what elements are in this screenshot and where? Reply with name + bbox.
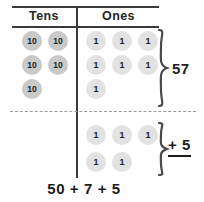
tens-token: 10 [22, 79, 42, 99]
ones-token: 1 [112, 152, 132, 172]
ones-token: 1 [112, 55, 132, 75]
column-divider [76, 6, 78, 178]
tens-token: 10 [48, 55, 68, 75]
ones-token: 1 [138, 55, 158, 75]
total-label: 57 [172, 60, 190, 77]
header-rule-bottom [12, 26, 159, 28]
tens-token: 10 [22, 31, 42, 51]
brace-top [158, 29, 172, 107]
group-separator [10, 111, 196, 112]
column-header-ones: Ones [78, 8, 159, 25]
ones-token: 1 [86, 125, 106, 145]
ones-token: 1 [138, 31, 158, 51]
equation-text: 50 + 7 + 5 [0, 180, 168, 197]
tens-token: 10 [22, 55, 42, 75]
ones-token: 1 [112, 31, 132, 51]
ones-token: 1 [86, 79, 106, 99]
tens-token: 10 [48, 31, 68, 51]
addend-label: + 5 [168, 136, 191, 157]
place-value-chart: Tens Ones 10 10 10 10 10 1 1 1 1 1 1 1 5… [0, 0, 204, 202]
ones-token: 1 [138, 125, 158, 145]
ones-token: 1 [86, 31, 106, 51]
column-header-tens: Tens [12, 8, 76, 25]
ones-token: 1 [86, 152, 106, 172]
ones-token: 1 [112, 125, 132, 145]
ones-token: 1 [86, 55, 106, 75]
